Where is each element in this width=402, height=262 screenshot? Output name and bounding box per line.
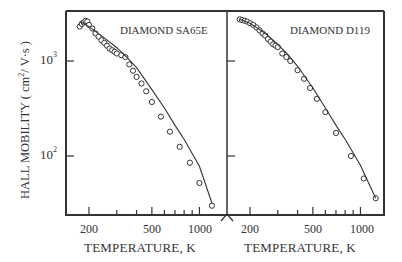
ytick-label-100: 102 [40,147,57,163]
y-axis-label: HALL MOBILITY ( cm2/ V·s ) [17,41,33,199]
xtick-right-500: 500 [304,222,322,237]
panel-left-title: DIAMOND SA65E [120,24,208,36]
panel-right-title: DIAMOND D119 [290,24,370,36]
xtick-left-200: 200 [80,222,98,237]
xtick-right-200: 200 [241,222,259,237]
x-axis-label-right: TEMPERATURE, K [244,240,356,256]
xtick-left-500: 500 [143,222,161,237]
plot-frame [66,11,384,216]
xtick-left-1000: 1000 [188,222,212,237]
series-d119 [237,17,378,201]
xtick-right-1000: 1000 [350,222,374,237]
x-axis-label-left: TEMPERATURE, K [84,240,196,256]
ytick-label-1000: 103 [40,52,57,68]
series-sa65e [77,18,214,208]
x-ticks [89,207,360,215]
y-ticks [66,61,235,156]
